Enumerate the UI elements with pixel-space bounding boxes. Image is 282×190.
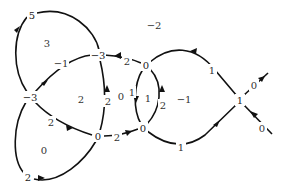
arc-left-minus3-to-bottom-2	[15, 102, 26, 173]
edge-label: 1	[178, 142, 184, 153]
arrow-icon	[250, 111, 258, 118]
region-label: 3	[44, 38, 50, 49]
strand-left-minus3-to-0mid	[35, 102, 92, 135]
vertex-label: 5	[29, 10, 35, 21]
region-label: −2	[147, 20, 162, 31]
region-label: −1	[177, 94, 192, 105]
edge-label: 1	[209, 65, 215, 76]
edge-label: 2	[114, 132, 120, 143]
edge-label: 2	[124, 56, 130, 67]
edge-label: 2	[48, 117, 54, 128]
region-label: 1	[145, 93, 151, 104]
edge-label: 0	[259, 123, 265, 134]
region-label: 0	[118, 91, 124, 102]
arrow-icon	[159, 85, 165, 92]
edge-label: −1	[54, 58, 69, 69]
orientation-arrows	[14, 26, 265, 181]
curve-strands	[15, 11, 272, 179]
vertex-label: 2	[25, 172, 31, 183]
arrow-icon	[125, 130, 132, 136]
edge-label: 2	[105, 96, 111, 107]
vertex-label: 1	[237, 95, 243, 106]
edge-label: 2	[160, 100, 166, 111]
vertex-label: 0	[95, 131, 101, 142]
knot-diagram: 5 −3 −3 0 0 0 1 2 −1 2 2 1 2 1 0 0 2	[0, 0, 282, 190]
vertex-label: −3	[23, 92, 38, 103]
vertex-label: 0	[143, 60, 149, 71]
arrow-icon	[114, 52, 121, 59]
vertex-label: −3	[91, 50, 106, 61]
edge-label: 1	[129, 87, 135, 98]
region-label: 2	[78, 94, 84, 105]
vertex-label: 0	[140, 123, 146, 134]
edge-label: 0	[251, 80, 257, 91]
region-label: 0	[41, 145, 47, 156]
